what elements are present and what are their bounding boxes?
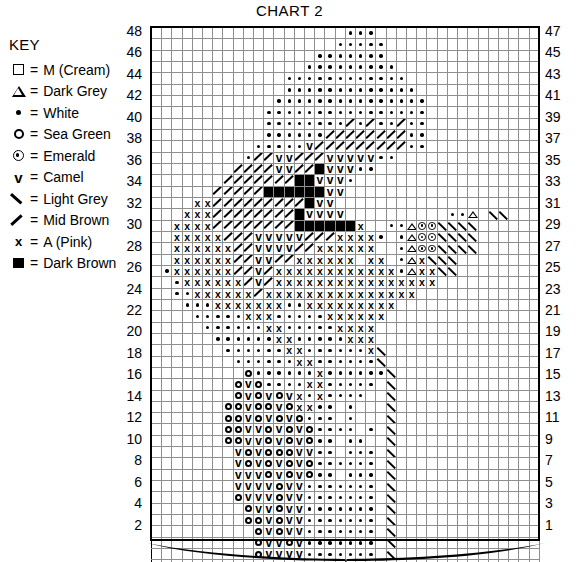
chart-cell[interactable] [396, 401, 406, 412]
chart-cell[interactable] [233, 243, 243, 254]
chart-cell[interactable] [162, 95, 172, 106]
chart-cell[interactable] [509, 299, 519, 310]
chart-cell[interactable]: x [376, 311, 386, 322]
chart-cell[interactable]: x [325, 265, 335, 276]
chart-cell[interactable] [366, 220, 376, 231]
chart-cell[interactable] [274, 447, 284, 458]
chart-cell[interactable] [152, 345, 162, 356]
chart-cell[interactable] [315, 526, 325, 537]
chart-cell[interactable] [447, 299, 457, 310]
chart-cell[interactable]: x [264, 288, 274, 299]
chart-cell[interactable] [356, 367, 366, 378]
chart-cell[interactable] [488, 265, 498, 276]
chart-cell[interactable] [417, 356, 427, 367]
chart-cell[interactable] [325, 469, 335, 480]
chart-cell[interactable] [172, 197, 182, 208]
chart-cell[interactable] [386, 95, 396, 106]
chart-cell[interactable] [264, 50, 274, 61]
chart-cell[interactable] [152, 197, 162, 208]
chart-cell[interactable] [335, 197, 345, 208]
chart-cell[interactable] [519, 435, 529, 446]
chart-cell[interactable] [172, 95, 182, 106]
chart-cell[interactable] [417, 367, 427, 378]
chart-cell[interactable] [345, 367, 355, 378]
chart-cell[interactable]: v [274, 401, 284, 412]
chart-cell[interactable]: x [417, 254, 427, 265]
chart-cell[interactable] [162, 447, 172, 458]
chart-cell[interactable] [509, 469, 519, 480]
chart-cell[interactable] [254, 50, 264, 61]
chart-cell[interactable] [376, 526, 386, 537]
chart-cell[interactable] [427, 515, 437, 526]
chart-cell[interactable] [305, 481, 315, 492]
chart-cell[interactable] [498, 107, 508, 118]
chart-cell[interactable] [447, 390, 457, 401]
chart-cell[interactable] [274, 492, 284, 503]
chart-cell[interactable]: x [294, 254, 304, 265]
chart-cell[interactable] [192, 311, 202, 322]
chart-cell[interactable] [437, 163, 447, 174]
chart-cell[interactable] [172, 73, 182, 84]
chart-cell[interactable]: x [315, 299, 325, 310]
chart-cell[interactable] [529, 50, 539, 61]
chart-cell[interactable] [294, 73, 304, 84]
chart-cell[interactable] [478, 322, 488, 333]
chart-cell[interactable] [315, 118, 325, 129]
chart-cell[interactable] [192, 84, 202, 95]
chart-cell[interactable]: x [233, 277, 243, 288]
chart-cell[interactable] [203, 435, 213, 446]
chart-cell[interactable] [325, 447, 335, 458]
chart-cell[interactable] [488, 209, 498, 220]
chart-cell[interactable] [162, 197, 172, 208]
chart-cell[interactable] [284, 220, 294, 231]
chart-cell[interactable]: v [284, 503, 294, 514]
chart-cell[interactable] [284, 469, 294, 480]
chart-cell[interactable] [468, 333, 478, 344]
chart-cell[interactable] [386, 503, 396, 514]
chart-cell[interactable] [509, 220, 519, 231]
chart-cell[interactable] [182, 311, 192, 322]
chart-cell[interactable] [498, 209, 508, 220]
chart-cell[interactable] [356, 492, 366, 503]
chart-cell[interactable] [192, 129, 202, 140]
chart-cell[interactable] [223, 73, 233, 84]
chart-cell[interactable] [478, 141, 488, 152]
chart-cell[interactable] [427, 481, 437, 492]
chart-cell[interactable] [447, 277, 457, 288]
chart-cell[interactable] [243, 231, 253, 242]
chart-cell[interactable] [152, 469, 162, 480]
chart-cell[interactable] [488, 356, 498, 367]
chart-cell[interactable]: v [294, 492, 304, 503]
chart-cell[interactable] [417, 175, 427, 186]
chart-cell[interactable] [233, 367, 243, 378]
chart-cell[interactable] [396, 390, 406, 401]
chart-cell[interactable] [529, 469, 539, 480]
chart-cell[interactable] [294, 220, 304, 231]
chart-cell[interactable] [213, 152, 223, 163]
chart-cell[interactable] [468, 186, 478, 197]
chart-cell[interactable]: x [172, 220, 182, 231]
chart-cell[interactable] [182, 322, 192, 333]
chart-cell[interactable] [509, 84, 519, 95]
chart-cell[interactable] [152, 28, 162, 39]
chart-cell[interactable] [529, 152, 539, 163]
chart-cell[interactable] [192, 333, 202, 344]
chart-cell[interactable] [407, 356, 417, 367]
chart-cell[interactable] [437, 345, 447, 356]
chart-cell[interactable] [345, 28, 355, 39]
chart-cell[interactable]: x [203, 265, 213, 276]
chart-cell[interactable] [509, 413, 519, 424]
chart-cell[interactable]: v [274, 231, 284, 242]
chart-cell[interactable] [407, 299, 417, 310]
chart-cell[interactable] [396, 424, 406, 435]
chart-cell[interactable]: v [243, 435, 253, 446]
chart-cell[interactable]: x [335, 288, 345, 299]
chart-cell[interactable] [478, 107, 488, 118]
chart-cell[interactable]: v [274, 469, 284, 480]
chart-cell[interactable] [407, 345, 417, 356]
chart-cell[interactable] [203, 73, 213, 84]
chart-cell[interactable] [284, 254, 294, 265]
chart-cell[interactable] [519, 163, 529, 174]
chart-cell[interactable]: v [243, 379, 253, 390]
chart-cell[interactable]: x [274, 265, 284, 276]
